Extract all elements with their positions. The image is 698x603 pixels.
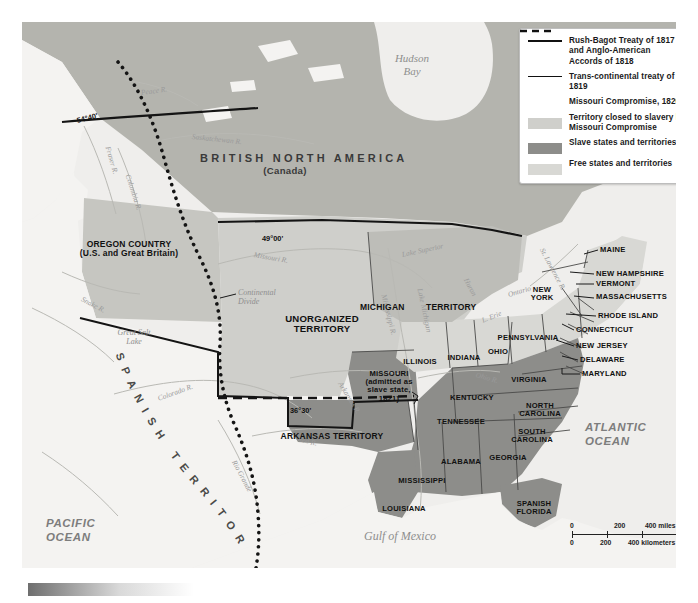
label-ohio: OHIO	[488, 348, 508, 356]
label-maine: MAINE	[600, 246, 625, 254]
label-illinois: ILLINOIS	[403, 358, 437, 366]
label-spanish-florida: SPANISH FLORIDA	[516, 500, 551, 516]
legend-item-closed-to-slavery: Territory closed to slavery by Missouri …	[528, 113, 676, 134]
scale-km-400: 400 kilometers	[628, 539, 675, 546]
label-columbia-river: Columbia R.	[124, 173, 144, 211]
label-mississippi: MISSISSIPPI	[398, 477, 445, 485]
label-arkansas-river: Arkansas R.	[336, 380, 363, 415]
label-new-jersey: NEW JERSEY	[576, 342, 628, 350]
label-alabama: ALABAMA	[441, 458, 481, 466]
label-new-york: NEW YORK	[531, 286, 554, 302]
legend-key-solid-line-thin	[528, 72, 562, 77]
label-lake-huron: Huron	[462, 276, 479, 297]
label-lake-erie: L. Erie	[480, 309, 502, 325]
label-pacific-ocean: PACIFIC OCEAN	[46, 516, 95, 545]
label-new-hampshire: NEW HAMPSHIRE	[596, 270, 664, 278]
label-north-carolina: NORTH CAROLINA	[519, 402, 561, 418]
scale-miles-0: 0	[570, 522, 574, 529]
label-lake-superior: Lake Superior	[401, 241, 444, 259]
scale-km-0: 0	[570, 539, 574, 546]
legend-item-free-states: Free states and territories	[528, 159, 676, 175]
scale-ruler	[570, 531, 676, 538]
label-connecticut: CONNECTICUT	[576, 326, 633, 334]
scale-miles-400: 400 miles	[645, 522, 676, 529]
legend-label-missouri-compromise: Missouri Compromise, 1820	[569, 97, 676, 107]
label-continental-divide: Continental Divide	[238, 288, 276, 306]
label-michigan-territory-word: TERRITORY	[426, 303, 476, 312]
label-great-salt-lake: Great Salt Lake	[118, 328, 151, 346]
historical-map: SPANISH TERRITORY BRITISH NORTH AMERICA(…	[22, 22, 676, 568]
label-oregon-country: OREGON COUNTRY (U.S. and Great Britain)	[80, 240, 178, 258]
label-atlantic-ocean: ATLANTIC OCEAN	[585, 420, 646, 449]
legend-label-closed-to-slavery: Territory closed to slavery by Missouri …	[569, 113, 676, 134]
label-mississippi-river: Mississippi R.	[380, 293, 399, 335]
label-virginia: VIRGINIA	[511, 376, 546, 384]
label-vermont: VERMONT	[596, 280, 635, 288]
label-49-00-line: 49°00'	[262, 234, 283, 243]
legend-item-rush-bagot: Rush-Bagot Treaty of 1817 and Anglo-Amer…	[528, 36, 676, 67]
bna-main: BRITISH NORTH AMERICA	[200, 152, 407, 164]
legend-label-rush-bagot: Rush-Bagot Treaty of 1817 and Anglo-Amer…	[569, 36, 676, 67]
scale-kilometers-labels: 0 200 400 kilometers	[570, 538, 676, 549]
label-maryland: MARYLAND	[582, 370, 627, 378]
bna-sub: (Canada)	[163, 165, 408, 176]
label-peace-river: Peace R.	[140, 84, 167, 97]
label-54-40-line: 54°40'	[76, 111, 99, 125]
legend-label-slave-states: Slave states and territories	[569, 138, 676, 148]
label-missouri-river: Missouri R.	[253, 250, 289, 265]
legend-item-slave-states: Slave states and territories	[528, 138, 676, 154]
label-ohio-river: Ohio R.	[475, 370, 500, 385]
scale-km-200: 200	[600, 539, 611, 546]
legend-item-transcontinental: Trans-continental treaty of 1819	[528, 72, 676, 93]
label-missouri-state: MISSOURI (admitted as slave state, 1821)	[365, 370, 412, 403]
label-delaware: DELAWARE	[580, 356, 625, 364]
scale-miles-labels: 0 200 400 miles	[570, 522, 676, 531]
label-massachusetts: MASSACHUSETTS	[596, 293, 667, 301]
legend-key-swatch-slave	[528, 138, 562, 154]
map-scale-bar: 0 200 400 miles 0 200 400 kilometers	[570, 522, 676, 549]
label-pennsylvania: PENNSYLVANIA	[498, 334, 559, 342]
legend-label-transcontinental: Trans-continental treaty of 1819	[569, 72, 676, 93]
label-arkansas-territory: ARKANSAS TERRITORY	[281, 432, 384, 441]
label-36-30-line: 36°30'	[290, 406, 311, 415]
label-rio-grande: Rio Grande	[230, 458, 254, 493]
legend-key-swatch-free	[528, 159, 562, 175]
label-south-carolina: SOUTH CAROLINA	[511, 428, 553, 444]
label-lake-ontario: Ontario	[507, 284, 532, 299]
legend-item-missouri-compromise: Missouri Compromise, 1820	[528, 97, 676, 107]
label-kentucky: KENTUCKY	[450, 394, 494, 402]
map-legend: Rush-Bagot Treaty of 1817 and Anglo-Amer…	[519, 28, 676, 184]
page-footer-bar	[28, 583, 194, 596]
label-fraser-river: Fraser R.	[104, 145, 120, 175]
label-unorganized-territory: UNORGANIZED TERRITORY	[285, 314, 359, 335]
label-british-north-america: BRITISH NORTH AMERICA(Canada)	[163, 140, 408, 200]
legend-key-swatch-closed	[528, 113, 562, 129]
label-snake-river: Snake R.	[80, 295, 107, 315]
label-rhode-island: RHODE ISLAND	[598, 312, 658, 320]
label-georgia: GEORGIA	[489, 454, 526, 462]
legend-label-free-states: Free states and territories	[569, 159, 672, 169]
label-indiana: INDIANA	[447, 354, 480, 362]
label-louisiana: LOUISIANA	[382, 505, 426, 513]
label-gulf-of-mexico: Gulf of Mexico	[364, 530, 436, 544]
legend-key-solid-line	[528, 36, 562, 42]
legend-key-dashed-line	[528, 97, 562, 101]
label-colorado-river: Colorado R.	[156, 382, 193, 403]
label-hudson-bay: Hudson Bay	[395, 52, 429, 77]
scale-miles-200: 200	[614, 522, 625, 529]
label-michigan: MICHIGAN	[360, 303, 405, 312]
label-tennessee: TENNESSEE	[437, 418, 485, 426]
